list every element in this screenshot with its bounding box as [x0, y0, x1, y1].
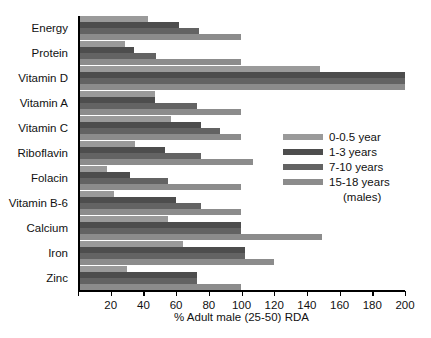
- bar: [80, 109, 242, 115]
- x-tick-mark: [405, 291, 406, 296]
- x-tick-mark: [274, 291, 275, 296]
- legend-item: 7-10 years: [283, 160, 425, 175]
- category-label: Vitamin A: [20, 97, 68, 109]
- bar: [80, 184, 242, 190]
- category-label: Vitamin D: [18, 72, 68, 84]
- x-tick-mark: [143, 291, 144, 296]
- category-label: Protein: [32, 47, 68, 59]
- category-label: Vitamin C: [18, 122, 68, 134]
- legend-item: 15-18 years: [283, 175, 425, 190]
- category-label: Energy: [32, 22, 68, 34]
- bar: [80, 209, 242, 215]
- legend-item: 1-3 years: [283, 145, 425, 160]
- x-tick-mark: [209, 291, 210, 296]
- category-label: Zinc: [46, 272, 68, 284]
- x-axis-title: % Adult male (25-50) RDA: [78, 311, 405, 323]
- legend-label-2: 7-10 years: [329, 160, 383, 175]
- category-label: Vitamin B-6: [9, 197, 68, 209]
- bar: [80, 84, 405, 90]
- bar: [80, 34, 242, 40]
- x-tick-mark: [372, 291, 373, 296]
- x-tick-mark: [176, 291, 177, 296]
- category-label: Iron: [48, 247, 68, 259]
- legend-swatch-2: [283, 164, 323, 170]
- x-tick-mark: [307, 291, 308, 296]
- bar: [80, 59, 242, 65]
- chart-legend: 0-0.5 year 1-3 years 7-10 years 15-18 ye…: [283, 130, 425, 190]
- bar: [80, 159, 253, 165]
- bar: [80, 284, 242, 290]
- bar: [80, 259, 275, 265]
- legend-swatch-1: [283, 149, 323, 155]
- legend-swatch-3: [283, 179, 323, 185]
- category-label: Calcium: [26, 222, 68, 234]
- x-tick-mark: [340, 291, 341, 296]
- legend-swatch-0: [283, 134, 323, 140]
- x-tick-mark: [242, 291, 243, 296]
- bar: [80, 234, 322, 240]
- x-tick-mark: [78, 291, 79, 296]
- legend-item: 0-0.5 year: [283, 130, 425, 145]
- nutrient-rda-bar-chart: EnergyProteinVitamin DVitamin AVitamin C…: [0, 0, 431, 338]
- legend-sublabel: (males): [329, 190, 381, 205]
- category-axis-labels: EnergyProteinVitamin DVitamin AVitamin C…: [0, 0, 74, 338]
- bar: [80, 134, 242, 140]
- category-label: Folacin: [31, 172, 68, 184]
- legend-label-3: 15-18 years: [329, 175, 390, 190]
- legend-label-0: 0-0.5 year: [329, 130, 381, 145]
- x-tick-mark: [111, 291, 112, 296]
- legend-label-1: 1-3 years: [329, 145, 377, 160]
- category-label: Riboflavin: [18, 147, 69, 159]
